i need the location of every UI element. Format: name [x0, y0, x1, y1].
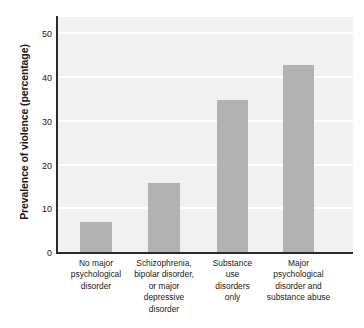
x-axis-category-label-line: bipolar disorder,	[127, 269, 201, 280]
y-axis-tick-label: 0	[6, 248, 52, 258]
y-axis-tick-label: 20	[6, 161, 52, 171]
bar	[148, 183, 180, 253]
x-axis-category-label-line: psychological	[59, 269, 133, 280]
x-axis-category-label: Substanceusedisordersonly	[196, 258, 270, 304]
y-axis-tick-label: 10	[6, 204, 52, 214]
x-axis-category-label-line: disorder and	[262, 281, 336, 292]
bar	[80, 222, 112, 253]
x-axis-category-labels: No majorpsychologicaldisorderSchizophren…	[58, 258, 353, 326]
x-axis-category-label-line: Substance	[196, 258, 270, 269]
y-axis-tick-labels: 01020304050	[0, 0, 52, 328]
x-axis-category-label-line: disorder	[59, 281, 133, 292]
x-axis-category-label-line: substance abuse	[262, 292, 336, 303]
x-axis-category-label-line: or major	[127, 281, 201, 292]
y-axis-tick-label: 40	[6, 73, 52, 83]
x-axis-category-label-line: disorders	[196, 281, 270, 292]
x-axis-category-label-line: Schizophrenia,	[127, 258, 201, 269]
x-axis-category-label-line: depressive	[127, 292, 201, 303]
y-axis-line	[56, 16, 58, 254]
x-axis-category-label-line: psychological	[262, 269, 336, 280]
x-axis-category-label: Majorpsychologicaldisorder andsubstance …	[262, 258, 336, 304]
y-axis-tick-label: 50	[6, 29, 52, 39]
plot-area	[58, 17, 353, 253]
x-axis-category-label-line: use	[196, 269, 270, 280]
y-axis-tick-label: 30	[6, 117, 52, 127]
x-axis-category-label: No majorpsychologicaldisorder	[59, 258, 133, 292]
bar	[283, 65, 314, 253]
bar-chart-figure: Prevalence of violence (percentage) 0102…	[0, 0, 364, 328]
x-axis-line	[56, 252, 353, 254]
x-axis-category-label: Schizophrenia,bipolar disorder,or majord…	[127, 258, 201, 315]
x-axis-category-label-line: No major	[59, 258, 133, 269]
gridline	[58, 32, 353, 34]
bar	[217, 100, 248, 253]
x-axis-category-label-line: disorder	[127, 304, 201, 315]
x-axis-category-label-line: only	[196, 292, 270, 303]
x-axis-category-label-line: Major	[262, 258, 336, 269]
